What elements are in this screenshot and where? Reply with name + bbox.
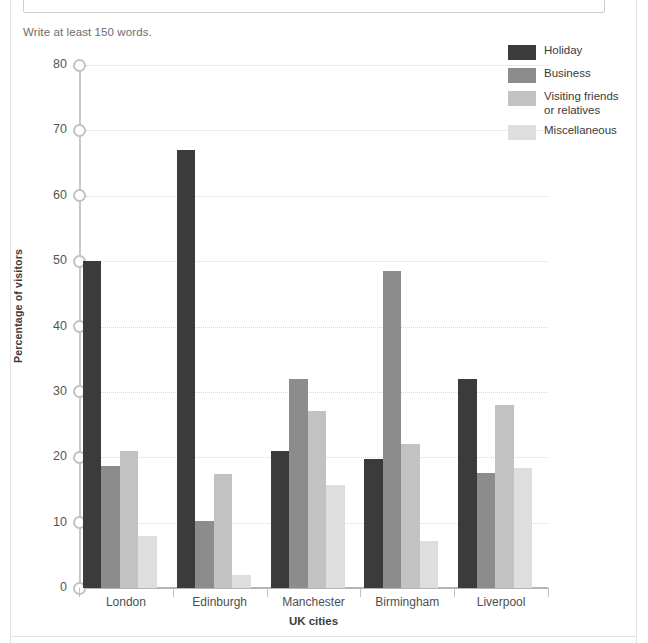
gridline xyxy=(86,130,548,131)
gridline xyxy=(86,65,548,66)
y-tick-label: 20 xyxy=(33,449,67,463)
bar xyxy=(138,536,157,588)
legend-swatch xyxy=(508,91,536,106)
bar xyxy=(477,473,496,588)
bar xyxy=(289,379,308,588)
bar xyxy=(514,468,533,588)
bar xyxy=(120,451,139,588)
y-tick-label: 70 xyxy=(33,122,67,136)
bar xyxy=(214,474,233,588)
x-tick-mark xyxy=(548,588,549,597)
bar xyxy=(326,485,345,588)
legend-item: Visiting friends or relatives xyxy=(508,90,640,117)
gridline xyxy=(86,261,548,262)
legend-item: Holiday xyxy=(508,44,640,60)
page-root: Write at least 150 words. 01020304050607… xyxy=(0,0,648,643)
gridline xyxy=(86,392,548,393)
bar xyxy=(271,451,290,588)
bar xyxy=(420,541,439,588)
x-axis-title: UK cities xyxy=(79,615,548,627)
x-tick-label: Birmingham xyxy=(360,595,454,609)
y-tick-marker xyxy=(73,59,86,72)
y-tick-label: 10 xyxy=(33,515,67,529)
bar xyxy=(195,521,214,588)
gridline xyxy=(86,327,548,328)
bar-chart: 01020304050607080 Percentage of visitors… xyxy=(0,0,648,643)
y-tick-label: 60 xyxy=(33,188,67,202)
x-tick-label: Edinburgh xyxy=(173,595,267,609)
legend-item: Miscellaneous xyxy=(508,124,640,140)
bar xyxy=(364,459,383,588)
legend-label: Holiday xyxy=(544,44,582,58)
bar xyxy=(383,271,402,588)
bar xyxy=(83,261,102,588)
y-tick-label: 30 xyxy=(33,384,67,398)
bar xyxy=(495,405,514,588)
y-tick-label: 50 xyxy=(33,253,67,267)
legend-swatch xyxy=(508,125,536,140)
x-tick-label: Manchester xyxy=(267,595,361,609)
legend-swatch xyxy=(508,68,536,83)
bar xyxy=(401,444,420,588)
legend-label: Miscellaneous xyxy=(544,124,617,138)
legend-label: Business xyxy=(544,67,591,81)
y-tick-label: 0 xyxy=(33,580,67,594)
bar xyxy=(177,150,196,588)
y-tick-marker xyxy=(73,189,86,202)
legend-label: Visiting friends or relatives xyxy=(544,90,619,117)
bar xyxy=(101,466,120,588)
legend-swatch xyxy=(508,45,536,60)
chart-legend: HolidayBusinessVisiting friends or relat… xyxy=(508,44,640,147)
y-tick-label: 80 xyxy=(33,57,67,71)
y-tick-label: 40 xyxy=(33,319,67,333)
bar xyxy=(232,575,251,588)
legend-item: Business xyxy=(508,67,640,83)
x-tick-label: London xyxy=(79,595,173,609)
bar xyxy=(308,411,327,588)
y-tick-marker xyxy=(73,124,86,137)
gridline xyxy=(86,196,548,197)
x-tick-label: Liverpool xyxy=(454,595,548,609)
y-axis-title: Percentage of visitors xyxy=(12,216,24,396)
bar xyxy=(458,379,477,588)
